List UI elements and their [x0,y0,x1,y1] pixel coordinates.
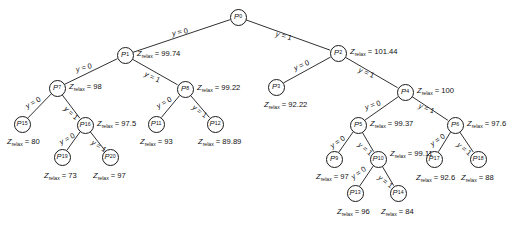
tree-node-p3: P3 [268,79,285,96]
relaxation-value-label-p1: Zrelax = 99.74 [137,50,180,59]
relaxation-value-label-p18: Zrelax = 88 [461,174,494,183]
tree-node-p11: P11 [148,116,165,133]
tree-node-p18: P18 [470,151,487,168]
relaxation-value-label-p6: Zrelax = 97.6 [467,120,506,129]
relaxation-value-label-p12: Zrelax = 89.89 [198,138,241,147]
tree-node-p7: P7 [49,80,66,97]
relaxation-value-label-p2: Zrelax = 101.44 [350,48,398,57]
relaxation-value-label-p4: Zrelax = 100 [417,87,454,96]
tree-node-p13: P13 [347,185,364,202]
tree-node-p14: P14 [390,185,407,202]
relaxation-value-label-p5: Zrelax = 99.37 [370,120,413,129]
relaxation-value-label-p3: Zrelax = 92.22 [264,101,307,110]
relaxation-value-label-p17: Zrelax = 92.6 [416,174,455,183]
tree-node-p9: P9 [326,151,343,168]
relaxation-value-label-p14: Zrelax = 84 [381,208,414,217]
relaxation-value-label-p9: Zrelax = 97 [316,173,349,182]
tree-node-p16: P16 [77,117,94,134]
relaxation-value-label-p7: Zrelax = 98 [69,83,102,92]
relaxation-value-label-p11: Zrelax = 93 [140,138,173,147]
tree-node-p1: P1 [117,47,134,64]
relaxation-value-label-p15: Zrelax = 80 [7,138,40,147]
tree-node-p2: P2 [330,45,347,62]
tree-node-p4: P4 [397,84,414,101]
tree-node-p5: P5 [350,117,367,134]
relaxation-value-label-p16: Zrelax = 97.5 [97,120,136,129]
tree-node-p15: P15 [14,116,31,133]
relaxation-value-label-p13: Zrelax = 96 [337,208,370,217]
tree-node-p12: P12 [207,116,224,133]
branch-and-bound-tree-diagram: P0P1P2P7P8P3P4P15P16P11P12P19P20P5P6P9P1… [0,0,521,229]
relaxation-value-label-p8: Zrelax = 99.22 [197,84,240,93]
relaxation-value-label-p19: Zrelax = 73 [44,172,77,181]
tree-node-p6: P6 [447,117,464,134]
relaxation-value-label-p20: Zrelax = 97 [93,172,126,181]
tree-node-p0: P0 [230,9,247,26]
tree-node-p19: P19 [54,149,71,166]
tree-node-p8: P8 [177,81,194,98]
relaxation-value-label-p10: Zrelax = 99.11 [390,150,433,159]
